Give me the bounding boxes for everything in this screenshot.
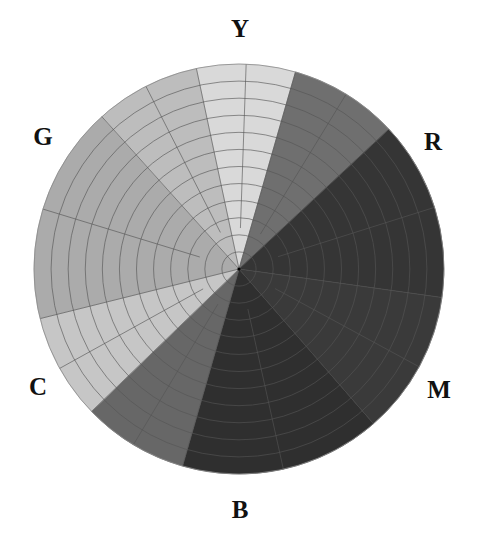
label-g: G <box>33 124 52 149</box>
label-c: C <box>29 374 47 399</box>
label-b: B <box>232 497 249 522</box>
color-wheel <box>0 0 477 539</box>
label-m: M <box>427 377 451 402</box>
label-y: Y <box>231 16 249 41</box>
label-r: R <box>424 129 442 154</box>
center-dot <box>237 267 240 270</box>
